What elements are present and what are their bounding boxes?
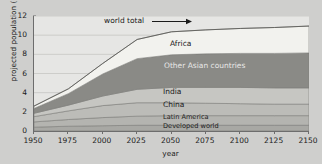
x-tick-mark [171,131,172,134]
x-tick-label: 2075 [195,137,214,145]
x-tick-mark [33,131,34,134]
x-tick-mark [136,131,137,134]
y-tick-label: 10 [17,31,27,39]
x-tick-mark [67,131,68,134]
x-tick-label: 2000 [92,137,111,145]
x-tick-label: 1950 [23,137,42,145]
y-tick-label: 6 [22,70,27,78]
x-axis-title: year [33,149,308,158]
y-tick-label: 4 [22,89,27,97]
x-tick-mark [102,131,103,134]
x-tick-label: 2050 [161,137,180,145]
x-tick-mark [205,131,206,134]
series-label-other-asian-countries: Other Asian countries [164,62,245,70]
y-tick-label: 12 [17,12,27,20]
world-total-arrow-icon [152,18,192,25]
series-label-latin-america: Latin America [163,114,209,121]
x-tick-mark [239,131,240,134]
series-label-india: India [163,88,181,96]
y-axis: 024681012 [0,0,33,132]
x-tick-label: 2125 [264,137,283,145]
series-label-china: China [163,101,184,109]
chart-figure: projected population (109) 024681012 195… [0,0,322,164]
x-tick-label: 1975 [58,137,77,145]
x-tick-label: 2025 [127,137,146,145]
series-label-africa: Africa [170,40,191,48]
x-tick-mark [274,131,275,134]
x-tick-label: 2100 [230,137,249,145]
x-tick-mark [308,131,309,134]
x-tick-label: 2150 [298,137,317,145]
annotation-world-total-label: world total [104,17,144,25]
y-tick-label: 2 [22,108,27,116]
y-tick-label: 8 [22,51,27,59]
series-label-developed-world: Developed world [163,123,219,130]
